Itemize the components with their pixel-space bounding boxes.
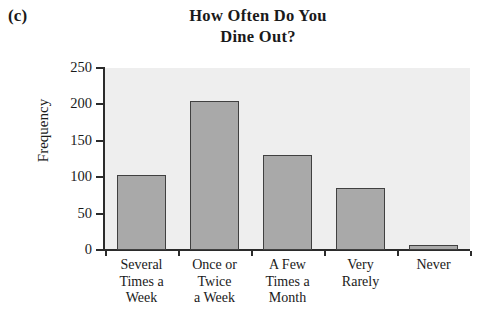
chart-title: How Often Do You Dine Out? (108, 5, 408, 47)
chart-title-line-2: Dine Out? (108, 26, 408, 47)
x-axis-category-label-line: Rarely (318, 274, 404, 291)
x-axis-tick (105, 251, 107, 256)
y-axis-tick (96, 67, 103, 69)
bar-chart-figure: (c) How Often Do You Dine Out? Frequency… (0, 0, 477, 332)
y-axis-tick-label: 250 (48, 60, 92, 74)
panel-label: (c) (8, 6, 27, 26)
x-axis-tick (251, 251, 253, 256)
bar (117, 175, 166, 250)
bar (409, 245, 458, 250)
x-axis-category-label: Never (391, 257, 477, 274)
y-axis-tick (96, 213, 103, 215)
x-axis-tick (324, 251, 326, 256)
x-axis-tick (470, 251, 472, 256)
y-axis-tick-label: 150 (48, 133, 92, 147)
y-axis-line (103, 67, 105, 251)
y-axis-tick-label: 0 (48, 242, 92, 256)
y-axis-tick (96, 249, 103, 251)
bar (336, 188, 385, 250)
y-axis-tick-label: 100 (48, 169, 92, 183)
bar (190, 101, 239, 250)
x-axis-tick (178, 251, 180, 256)
chart-title-line-1: How Often Do You (189, 6, 327, 25)
x-axis-category-label-line: Never (391, 257, 477, 274)
y-axis-tick-label: 200 (48, 96, 92, 110)
y-axis-tick (96, 140, 103, 142)
y-axis-tick (96, 176, 103, 178)
y-axis-tick-label: 50 (48, 206, 92, 220)
bar (263, 155, 312, 250)
x-axis-tick (397, 251, 399, 256)
y-axis-tick (96, 103, 103, 105)
x-axis-category-label-line: Month (245, 290, 331, 307)
